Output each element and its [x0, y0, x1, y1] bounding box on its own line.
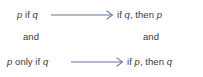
variable-q-top-left: q	[33, 9, 38, 20]
connector-word-top-left: if	[25, 9, 30, 20]
conjunction-right: and	[143, 31, 159, 42]
lead-if-bottom-right: if	[127, 56, 132, 67]
variable-p-top-right: p	[157, 9, 162, 20]
variable-p-bottom-left: p	[7, 56, 12, 67]
lead-if-top-right: if	[117, 9, 122, 20]
right-expression-top: if q, then p	[117, 9, 162, 20]
left-expression-top: p if q	[17, 9, 38, 20]
left-expression-bottom: p only if q	[7, 56, 48, 67]
separator-then-bottom-right: , then	[140, 56, 164, 67]
separator-then-top-right: , then	[130, 9, 154, 20]
conjunction-left: and	[23, 31, 39, 42]
variable-q-bottom-left: q	[43, 56, 48, 67]
rightwards-arrow-icon-top	[51, 9, 114, 21]
variable-q-bottom-right: q	[167, 56, 172, 67]
right-expression-bottom: if p, then q	[127, 56, 172, 67]
rightwards-arrow-icon-bottom	[71, 56, 124, 68]
logic-equivalence-diagram: p if q if q, then p and and p only if q …	[0, 0, 203, 77]
connector-only-if-bottom-left: only if	[15, 56, 40, 67]
